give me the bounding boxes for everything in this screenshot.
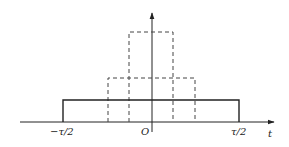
tick-label-left: −τ/2 (50, 126, 74, 137)
pulse-diagram: −τ/2 O τ/2 t (0, 0, 289, 147)
origin-label: O (141, 126, 149, 137)
tall-dashed-pulse (129, 32, 173, 122)
tick-label-right: τ/2 (231, 126, 246, 137)
x-axis-label: t (268, 128, 273, 139)
wide-solid-pulse (63, 100, 239, 122)
